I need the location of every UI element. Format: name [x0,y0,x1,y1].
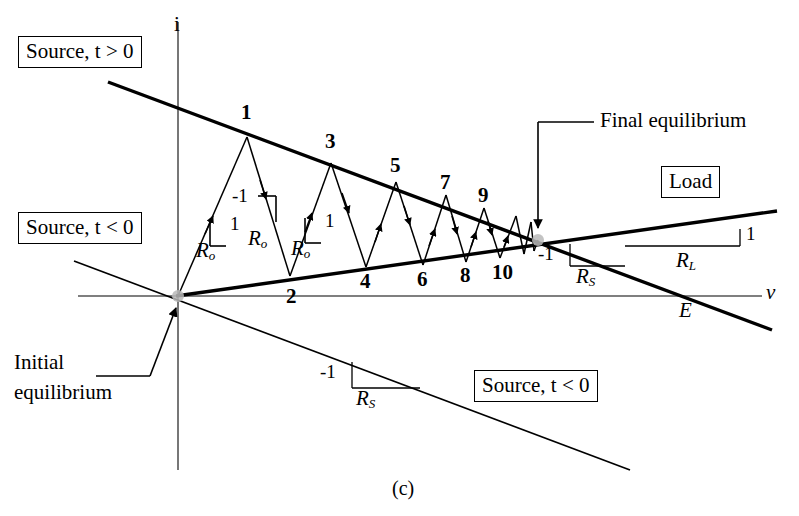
box-source-negative-bottom: Source, t < 0 [474,370,598,402]
box-load: Load [661,166,720,198]
slope-rise-rs-upper: -1 [538,244,554,263]
slope-run-rs-lower: RS [356,388,375,410]
bounce-label-6: 6 [417,269,428,290]
bounce-label-4: 4 [360,271,371,292]
slope-run-ro-3: Ro [291,238,310,260]
slope-run-ro-1: Ro [196,240,215,262]
slope-rise-rl: 1 [746,224,756,243]
bounce-label-7: 7 [440,172,451,193]
slope-run-ro-2: Ro [248,228,267,250]
final-equilibrium-label: Final equilibrium [600,110,746,131]
box-source-positive: Source, t > 0 [18,36,142,68]
slope-triangle-rs-upper [570,244,625,266]
bounce-label-5: 5 [390,155,401,176]
slope-rise-ro-1: 1 [230,214,240,233]
slope-rise-ro-2: -1 [232,186,248,205]
bounce-label-3: 3 [325,131,336,152]
initial-equilibrium-leader [96,308,176,376]
figure-caption: (c) [392,478,414,498]
slope-triangle-rs-lower [352,362,420,388]
v-axis-label: v [766,282,775,303]
bounce-label-2: 2 [286,286,297,307]
bounce-label-10: 10 [492,262,513,283]
initial-equilibrium-point [172,290,184,302]
i-axis-label: i [174,14,180,35]
slope-run-rs-upper: RS [576,266,595,288]
bounce-label-1: 1 [241,102,252,123]
final-equilibrium-leader [538,122,594,228]
box-source-negative-left: Source, t < 0 [18,212,142,244]
bounce-label-8: 8 [460,265,471,286]
slope-run-rl: RL [676,250,696,272]
initial-equilibrium-label-line2: equilibrium [14,382,112,403]
slope-rise-ro-3: 1 [325,211,335,230]
figure-canvas: Source, t > 0 Source, t < 0 Source, t < … [0,0,799,516]
source-voltage-label: E [679,300,692,321]
initial-equilibrium-label-line1: Initial [14,352,64,373]
bounce-label-9: 9 [478,185,489,206]
slope-rise-rs-lower: -1 [320,362,336,381]
